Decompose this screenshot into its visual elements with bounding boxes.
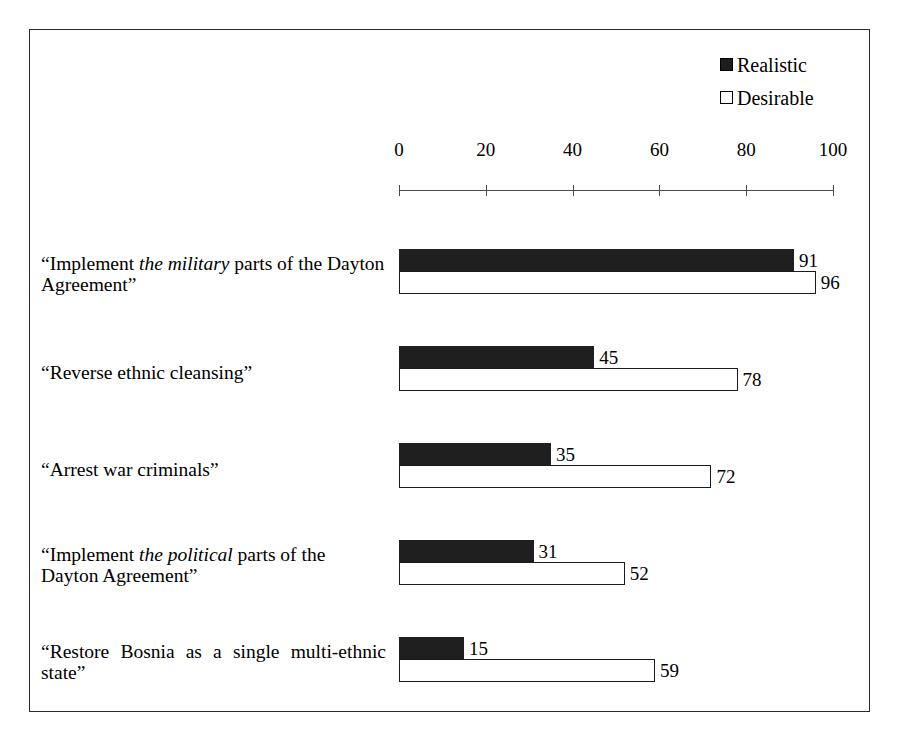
x-axis-tick-label: 40 bbox=[563, 140, 582, 159]
bar-group: “Implement the political parts of the Da… bbox=[30, 540, 871, 610]
bar-row-desirable: 78 bbox=[399, 368, 762, 391]
x-axis-line bbox=[399, 190, 833, 191]
bar-value-label: 78 bbox=[743, 370, 762, 389]
category-label: “Implement the political parts of the Da… bbox=[41, 544, 386, 586]
bar-value-label: 31 bbox=[539, 542, 558, 561]
bar-value-label: 96 bbox=[821, 273, 840, 292]
x-axis-tick-mark bbox=[399, 185, 400, 196]
bar-row-realistic: 35 bbox=[399, 443, 575, 466]
bar-row-desirable: 59 bbox=[399, 659, 679, 682]
bar-desirable[interactable] bbox=[399, 465, 711, 488]
bar-realistic[interactable] bbox=[399, 443, 551, 466]
bar-realistic[interactable] bbox=[399, 249, 794, 272]
bar-pair: 3152 bbox=[399, 540, 859, 610]
legend-item-realistic: Realistic bbox=[720, 48, 870, 81]
bar-value-label: 45 bbox=[599, 348, 618, 367]
bar-realistic[interactable] bbox=[399, 637, 464, 660]
bar-desirable[interactable] bbox=[399, 368, 738, 391]
bar-row-realistic: 31 bbox=[399, 540, 558, 563]
bar-realistic[interactable] bbox=[399, 540, 534, 563]
bar-realistic[interactable] bbox=[399, 346, 594, 369]
x-axis-tick-labels: 020406080100 bbox=[399, 140, 839, 168]
category-label: “Implement the military parts of the Day… bbox=[41, 253, 386, 295]
bar-group: “Arrest war criminals”3572 bbox=[30, 443, 871, 513]
x-axis-tick-mark bbox=[486, 185, 487, 196]
legend-item-desirable: Desirable bbox=[720, 81, 870, 114]
x-axis-tick-label: 80 bbox=[737, 140, 756, 159]
bar-pair: 1559 bbox=[399, 637, 859, 707]
bar-row-desirable: 96 bbox=[399, 271, 840, 294]
legend-swatch-realistic-icon bbox=[720, 58, 733, 71]
chart-legend: Realistic Desirable bbox=[720, 48, 870, 114]
bar-value-label: 72 bbox=[716, 467, 735, 486]
bar-desirable[interactable] bbox=[399, 659, 655, 682]
x-axis-tick-label: 100 bbox=[819, 140, 848, 159]
bar-group: “Restore Bosnia as a single multi-ethnic… bbox=[30, 637, 871, 707]
legend-label-desirable: Desirable bbox=[737, 88, 814, 108]
x-axis-tick-label: 20 bbox=[476, 140, 495, 159]
bar-value-label: 52 bbox=[630, 564, 649, 583]
category-label: “Arrest war criminals” bbox=[41, 459, 386, 480]
bar-pair: 9196 bbox=[399, 249, 859, 319]
bar-row-realistic: 91 bbox=[399, 249, 818, 272]
bar-desirable[interactable] bbox=[399, 562, 625, 585]
category-label: “Reverse ethnic cleansing” bbox=[41, 362, 386, 383]
bar-row-realistic: 15 bbox=[399, 637, 488, 660]
bar-row-desirable: 52 bbox=[399, 562, 649, 585]
x-axis-tick-mark bbox=[573, 185, 574, 196]
bar-group: “Implement the military parts of the Day… bbox=[30, 249, 871, 319]
x-axis-tick-mark bbox=[833, 185, 834, 196]
category-label: “Restore Bosnia as a single multi-ethnic… bbox=[41, 641, 386, 704]
bar-desirable[interactable] bbox=[399, 271, 816, 294]
bar-value-label: 15 bbox=[469, 639, 488, 658]
plot-area: “Implement the military parts of the Day… bbox=[30, 198, 871, 698]
chart-frame: Realistic Desirable 020406080100 “Implem… bbox=[29, 29, 870, 712]
bar-row-realistic: 45 bbox=[399, 346, 618, 369]
bar-group: “Reverse ethnic cleansing”4578 bbox=[30, 346, 871, 416]
bar-value-label: 91 bbox=[799, 251, 818, 270]
x-axis-tick-mark bbox=[746, 185, 747, 196]
x-axis-tick-label: 60 bbox=[650, 140, 669, 159]
bar-row-desirable: 72 bbox=[399, 465, 735, 488]
x-axis: 020406080100 bbox=[399, 140, 839, 200]
bar-value-label: 59 bbox=[660, 661, 679, 680]
legend-swatch-desirable-icon bbox=[720, 91, 733, 104]
x-axis-tick-mark bbox=[659, 185, 660, 196]
x-axis-line-group bbox=[399, 185, 833, 197]
bar-pair: 4578 bbox=[399, 346, 859, 416]
bar-pair: 3572 bbox=[399, 443, 859, 513]
legend-label-realistic: Realistic bbox=[737, 55, 807, 75]
bar-value-label: 35 bbox=[556, 445, 575, 464]
x-axis-tick-label: 0 bbox=[394, 140, 404, 159]
